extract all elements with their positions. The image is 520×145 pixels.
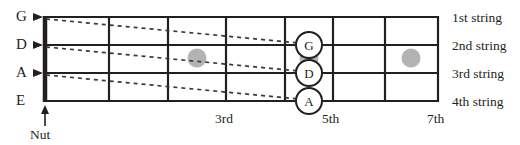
guide-line-d-string — [46, 47, 309, 72]
note-label-g: G — [296, 39, 322, 52]
nut-pointer-group — [41, 105, 49, 126]
arrowhead-d-string — [33, 41, 43, 49]
open-string-label-a: A — [16, 65, 27, 80]
note-label-a: A — [296, 95, 322, 108]
string-name-2nd: 2nd string — [452, 39, 506, 53]
string-lines-group — [44, 17, 438, 101]
nut-label: Nut — [30, 128, 50, 142]
string-name-1st: 1st string — [452, 11, 502, 25]
open-string-label-g: G — [16, 9, 27, 24]
open-string-label-d: D — [16, 37, 27, 52]
string-name-4th: 4th string — [452, 95, 503, 109]
fret-number-3rd: 3rd — [215, 112, 233, 126]
inlay-dot-7th-fret — [402, 49, 421, 68]
unison-guide-lines-group — [46, 19, 309, 100]
arrowhead-g-string — [33, 13, 43, 21]
note-label-d: D — [296, 67, 322, 80]
open-string-label-e: E — [16, 93, 25, 108]
inlay-dot-3rd-fret — [188, 49, 207, 68]
guide-line-a-string — [46, 75, 309, 100]
open-string-arrowheads-group — [33, 13, 43, 77]
string-name-3rd: 3rd string — [452, 67, 504, 81]
guide-line-g-string — [46, 19, 309, 44]
fretboard-diagram: G D A E G D A 1st string 2nd string 3rd … — [0, 0, 520, 145]
nut-arrowhead-icon — [41, 105, 49, 114]
fret-number-7th: 7th — [427, 112, 444, 126]
fret-number-5th: 5th — [322, 112, 339, 126]
arrowhead-a-string — [33, 69, 43, 77]
